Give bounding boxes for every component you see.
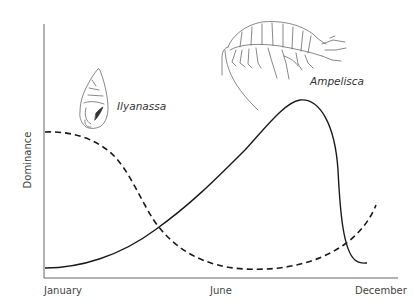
ampelisca-label: Ampelisca xyxy=(309,75,364,87)
ilyanassa-label: Ilyanassa xyxy=(117,100,166,112)
y-axis-label: Dominance xyxy=(22,132,33,189)
ampelisca-curve xyxy=(45,100,367,268)
ilyanassa-shell-icon xyxy=(80,69,108,129)
x-tick-december: December xyxy=(355,285,408,296)
x-tick-january: January xyxy=(43,285,82,296)
x-tick-june: June xyxy=(209,285,232,296)
ilyanassa-curve xyxy=(45,132,376,269)
dominance-chart: Dominance January June December Ilyanass… xyxy=(0,0,413,305)
ampelisca-amphipod-icon xyxy=(222,22,346,111)
